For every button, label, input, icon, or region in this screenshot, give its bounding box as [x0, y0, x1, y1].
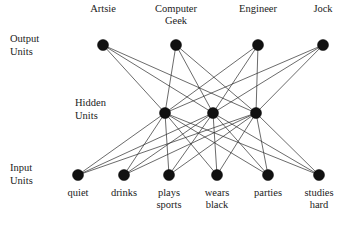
- edge-studies-hard-to-hidden-1: [165, 113, 319, 175]
- edge-hidden-3-to-engineer: [256, 45, 258, 113]
- label-studies-hard-line1: studies: [304, 187, 333, 198]
- unit-node-hidden-3: [251, 108, 262, 119]
- unit-nodes: [73, 40, 329, 181]
- edge-hidden-2-to-engineer: [213, 45, 258, 113]
- edge-hidden-2-to-artsie: [103, 45, 213, 113]
- label-engineer: Engineer: [239, 3, 277, 14]
- edge-parties-to-hidden-2: [213, 113, 268, 175]
- row-label-hidden-units-line2: Units: [75, 110, 98, 121]
- unit-node-drinks: [119, 170, 130, 181]
- edge-wears-black-to-hidden-1: [165, 113, 217, 175]
- unit-node-artsie: [98, 40, 109, 51]
- unit-node-jock: [318, 40, 329, 51]
- unit-node-wears-black: [212, 170, 223, 181]
- label-wears-black-line2: black: [206, 199, 229, 210]
- label-studies-hard-line2: hard: [310, 199, 329, 210]
- row-label-output-units-line2: Units: [10, 46, 33, 57]
- label-drinks: drinks: [111, 187, 137, 198]
- row-label-input-units-line2: Units: [10, 175, 33, 186]
- edge-hidden-1-to-computer-geek: [165, 45, 176, 113]
- row-label-input-units-line1: Input: [10, 162, 32, 173]
- edge-quiet-to-hidden-1: [78, 113, 165, 175]
- row-label-output-units-line1: Output: [10, 33, 39, 44]
- row-labels: OutputUnitsHiddenUnitsInputUnits: [10, 33, 107, 186]
- edges-input-to-hidden: [78, 113, 319, 175]
- label-quiet: quiet: [68, 187, 89, 198]
- edge-hidden-2-to-jock: [213, 45, 323, 113]
- unit-node-computer-geek: [171, 40, 182, 51]
- unit-node-hidden-2: [208, 108, 219, 119]
- edge-plays-sports-to-hidden-3: [169, 113, 256, 175]
- label-artsie: Artsie: [90, 3, 116, 14]
- label-parties: parties: [254, 187, 282, 198]
- edge-hidden-2-to-computer-geek: [176, 45, 213, 113]
- row-label-hidden-units-line1: Hidden: [75, 97, 107, 108]
- edges-hidden-to-output: [103, 45, 323, 113]
- neural-network-diagram: ArtsieComputerGeekEngineerJockquietdrink…: [0, 0, 357, 228]
- edge-hidden-3-to-jock: [256, 45, 323, 113]
- label-jock: Jock: [313, 3, 333, 14]
- unit-node-plays-sports: [164, 170, 175, 181]
- unit-node-engineer: [253, 40, 264, 51]
- network-svg: ArtsieComputerGeekEngineerJockquietdrink…: [0, 0, 357, 228]
- label-plays-sports-line1: plays: [158, 187, 180, 198]
- unit-node-studies-hard: [314, 170, 325, 181]
- edge-hidden-1-to-artsie: [103, 45, 165, 113]
- label-computer-geek-line2: Geek: [165, 15, 188, 26]
- unit-node-hidden-1: [160, 108, 171, 119]
- edge-quiet-to-hidden-2: [78, 113, 213, 175]
- unit-labels: ArtsieComputerGeekEngineerJockquietdrink…: [68, 3, 334, 210]
- label-wears-black-line1: wears: [205, 187, 230, 198]
- unit-node-parties: [263, 170, 274, 181]
- unit-node-quiet: [73, 170, 84, 181]
- label-computer-geek-line1: Computer: [155, 3, 197, 14]
- label-plays-sports-line2: sports: [156, 199, 181, 210]
